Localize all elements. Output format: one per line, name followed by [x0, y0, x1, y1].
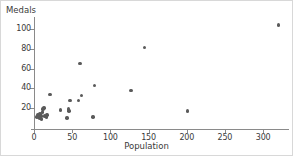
x-tick-label: 50 — [67, 134, 77, 142]
data-point — [143, 46, 146, 49]
y-tick-label: 100 — [16, 25, 31, 33]
x-tick-label: 100 — [103, 134, 118, 142]
x-tick-label: 250 — [218, 134, 233, 142]
x-tick-label: 200 — [179, 134, 194, 142]
x-tick-label: 0 — [32, 134, 37, 142]
data-point — [80, 94, 83, 97]
data-point — [78, 62, 81, 65]
data-point — [40, 117, 43, 120]
data-point — [41, 110, 44, 113]
data-point — [77, 99, 80, 102]
plot-area: 20406080100 — [34, 19, 286, 128]
y-tick-label: 60 — [21, 65, 31, 73]
data-point — [42, 106, 45, 109]
data-point — [45, 113, 48, 116]
y-axis-title: Medals — [6, 6, 36, 15]
data-point — [91, 115, 94, 118]
data-point — [67, 109, 70, 112]
x-axis-title: Population — [1, 142, 292, 151]
data-point — [65, 116, 68, 119]
y-tick-label: 20 — [21, 104, 31, 112]
data-point — [129, 89, 132, 92]
data-point — [68, 99, 71, 102]
x-axis-line — [31, 129, 289, 130]
data-point — [48, 93, 51, 96]
data-point — [93, 84, 96, 87]
y-tick-label: 40 — [21, 84, 31, 92]
data-point — [59, 108, 62, 111]
scatter-plot-figure: Medals 20406080100 050100150200250300 Po… — [0, 0, 293, 156]
data-point — [186, 109, 189, 112]
x-tick-label: 300 — [256, 134, 271, 142]
y-tick-label: 80 — [21, 45, 31, 53]
data-point — [277, 23, 280, 26]
